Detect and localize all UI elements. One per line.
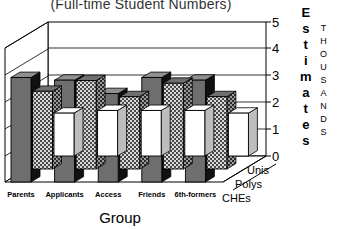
axis-title-letter: s — [302, 22, 309, 38]
axis-title-letter: a — [302, 86, 309, 102]
axis-title-letter: e — [302, 118, 309, 134]
y-axis-title: Estimates — [300, 6, 312, 150]
axis-title-letter: s — [302, 134, 309, 150]
chart-plot-area: 5 4 3 2 1 0 Unis Polys CHEs ParentsAppli… — [0, 0, 300, 229]
bar-unis-parents — [54, 108, 83, 156]
series-label-ches: CHEs — [222, 192, 251, 204]
x-category-label: 6th-formers — [175, 190, 217, 199]
x-category-label: Access — [95, 190, 121, 199]
y-tick-5: 5 — [272, 15, 279, 30]
bar-unis-applicants — [98, 105, 127, 156]
axis-title-letter: i — [304, 54, 308, 70]
axis-title-letter: m — [300, 70, 312, 86]
y-tick-2: 2 — [272, 95, 279, 110]
y-axis-unit-label: THOUSANDS — [320, 24, 327, 141]
y-tick-1: 1 — [272, 122, 279, 137]
axis-title-letter: t — [304, 102, 308, 118]
axis-title-letter: E — [301, 6, 310, 22]
x-axis-title: Group — [99, 209, 141, 226]
bar-unis-6th-formers — [228, 108, 257, 156]
chart-container: (Full-time Student Numbers) — [0, 0, 344, 229]
x-category-labels: ParentsApplicantsAccessFriends6th-former… — [7, 190, 216, 199]
y-tick-3: 3 — [272, 68, 279, 83]
x-category-label: Friends — [138, 190, 165, 199]
x-category-label: Parents — [7, 190, 35, 199]
bar-unis-friends — [185, 105, 214, 156]
x-category-label: Applicants — [45, 190, 83, 199]
series-label-polys: Polys — [235, 178, 262, 190]
y-tick-0: 0 — [272, 149, 279, 164]
series-label-unis: Unis — [247, 164, 270, 176]
axis-title-letter: t — [304, 38, 308, 54]
axis-title-letter: S — [321, 128, 327, 141]
bar-unis-access — [141, 105, 170, 156]
y-axis-ticks: 5 4 3 2 1 0 — [266, 15, 279, 164]
y-tick-4: 4 — [272, 41, 279, 56]
